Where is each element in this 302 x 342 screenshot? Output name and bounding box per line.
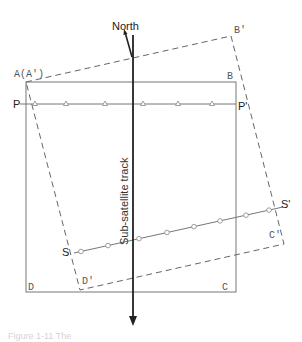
triangle-icon bbox=[64, 101, 69, 106]
north-direction-line bbox=[125, 32, 132, 57]
triangle-markers bbox=[33, 101, 215, 106]
circle-icon bbox=[218, 219, 223, 224]
circle-icon bbox=[244, 213, 249, 218]
triangle-icon bbox=[176, 101, 181, 106]
corner-label-d: D bbox=[28, 282, 34, 293]
north-label: North bbox=[112, 20, 139, 32]
circle-icon bbox=[165, 230, 170, 235]
corner-label-d-prime: D' bbox=[82, 276, 94, 287]
point-label-p: P bbox=[13, 98, 20, 110]
triangle-icon bbox=[210, 101, 215, 106]
track-arrow-down-icon bbox=[129, 316, 137, 326]
circle-icon bbox=[106, 243, 111, 248]
circle-icon bbox=[192, 224, 197, 229]
circle-icon bbox=[79, 249, 84, 254]
triangle-icon bbox=[33, 101, 38, 106]
circle-icon bbox=[137, 236, 142, 241]
satellite-scan-diagram: Figure 1-11 The North Sub-satellite trac… bbox=[0, 0, 302, 342]
image-frame-abcd bbox=[26, 82, 236, 292]
corner-label-c: C bbox=[222, 282, 228, 293]
figure-caption: Figure 1-11 The bbox=[8, 331, 71, 341]
track-label: Sub-satellite track bbox=[118, 157, 130, 245]
corner-label-b: B bbox=[227, 71, 233, 82]
triangle-icon bbox=[103, 101, 108, 106]
circle-icon bbox=[267, 208, 272, 213]
point-label-p-prime: P' bbox=[238, 100, 247, 112]
corner-label-a: A(A') bbox=[14, 69, 44, 80]
point-label-s: S bbox=[62, 246, 69, 258]
point-label-s-prime: S' bbox=[281, 198, 290, 210]
triangle-icon bbox=[141, 101, 146, 106]
corner-label-c-prime: C' bbox=[269, 230, 281, 241]
corner-label-b-prime: B' bbox=[234, 25, 246, 36]
